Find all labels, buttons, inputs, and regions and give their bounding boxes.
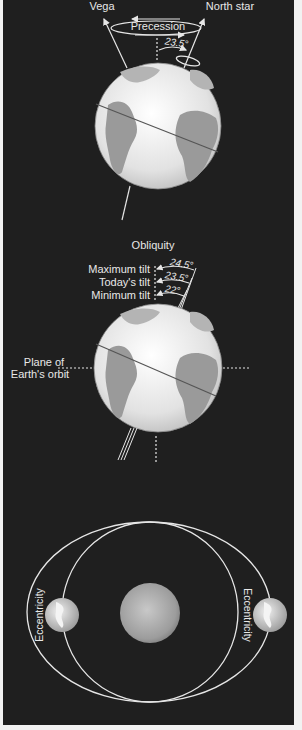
- obliquity-title: Obliquity: [132, 239, 175, 251]
- eccentricity-label-left: Eccentricity: [33, 587, 45, 641]
- precession-label: Precession: [131, 20, 185, 32]
- plane-of-orbit-label-line2: Earth's orbit: [11, 368, 69, 380]
- south-axis-line: [122, 186, 130, 220]
- eccentricity-label-right: Eccentricity: [242, 588, 254, 642]
- earth-left: [45, 598, 79, 632]
- earth-globe-top: [95, 63, 221, 189]
- eccentricity-section: Eccentricity Eccentricity: [27, 522, 287, 702]
- max-tilt-angle: 24.5°: [168, 256, 194, 271]
- todays-tilt-label: Today's tilt: [99, 276, 150, 288]
- vega-label: Vega: [89, 0, 115, 12]
- earth-globe-middle: [94, 304, 222, 432]
- min-tilt-angle: 22°: [163, 283, 181, 297]
- south-axis-line-2: [121, 428, 134, 460]
- obliquity-section: Obliquity Maximum tilt Today's tilt Mini…: [11, 239, 250, 462]
- vega-axis-line: [104, 19, 127, 68]
- north-star-label: North star: [206, 0, 255, 12]
- south-axis-line-3: [124, 428, 137, 460]
- south-axis-line-1: [118, 428, 131, 460]
- sun: [120, 583, 180, 643]
- plane-of-orbit-label-line1: Plane of: [24, 356, 65, 368]
- milankovitch-cycles-diagram: Vega North star Precession 23.5° Ob: [0, 0, 302, 730]
- earth-right: [253, 598, 287, 632]
- today-tilt-angle: 23.5°: [163, 269, 189, 284]
- precession-section: Vega North star Precession 23.5°: [89, 0, 254, 220]
- spin-ellipse: [175, 54, 200, 68]
- minimum-tilt-label: Minimum tilt: [91, 289, 150, 301]
- maximum-tilt-label: Maximum tilt: [88, 263, 150, 275]
